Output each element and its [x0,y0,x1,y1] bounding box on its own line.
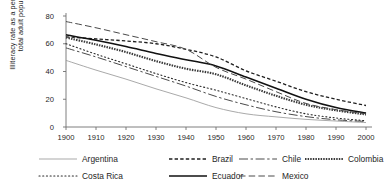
legend-item-label: Argentina [82,154,118,164]
legend-line-swatch-icon [238,171,278,181]
legend-item-label: Costa Rica [82,171,123,181]
x-axis-tick-label: 1900 [49,133,83,142]
legend-line-swatch-icon [38,154,78,164]
x-axis-tick-label: 1990 [319,133,353,142]
illiteracy-line-chart: Illiteracy rate as a percentage of total… [0,0,392,192]
series-line-argentina [66,60,366,122]
x-axis-tick-label: 1950 [199,133,233,142]
plot-canvas [59,12,372,131]
x-axis-tick-label: 1930 [139,133,173,142]
y-axis-title: Illiteracy rate as a percentage of total… [9,0,27,79]
y-axis-title-line-2: total adult population [17,0,25,79]
x-axis-tick-label: 1970 [259,133,293,142]
y-axis-tick-labels: 020406080 [28,0,54,143]
x-axis-tick-label: 1960 [229,133,263,142]
series-line-brazil [66,37,366,106]
legend-item-label: Chile [282,154,301,164]
x-axis-tick-label: 1920 [109,133,143,142]
legend-line-swatch-icon [168,154,208,164]
legend-row-2: Costa RicaEcuadorMexico [0,169,392,186]
y-axis-tick-label: 60 [32,39,54,48]
series-line-chile [66,48,366,122]
legend-item-chile[interactable]: Chile [238,154,301,164]
legend-row-1: ArgentinaBrazilChileColombia [0,152,392,169]
x-axis-tick-label: 1980 [289,133,323,142]
y-axis-tick-label: 40 [32,67,54,76]
y-axis-tick-label: 80 [32,12,54,21]
legend-item-label: Mexico [282,171,309,181]
legend-item-ecuador[interactable]: Ecuador [168,171,243,181]
x-axis-tick-label: 1940 [169,133,203,142]
x-axis-tick-label: 1910 [79,133,113,142]
legend-item-label: Colombia [348,154,383,164]
chart-legend: ArgentinaBrazilChileColombia Costa RicaE… [0,152,392,192]
legend-line-swatch-icon [168,171,208,181]
legend-item-costa-rica[interactable]: Costa Rica [38,171,123,181]
legend-line-swatch-icon [38,171,78,181]
legend-item-colombia[interactable]: Colombia [304,154,383,164]
legend-item-mexico[interactable]: Mexico [238,171,309,181]
y-axis-tick-label: 0 [32,123,54,132]
legend-item-argentina[interactable]: Argentina [38,154,118,164]
legend-line-swatch-icon [238,154,278,164]
legend-item-brazil[interactable]: Brazil [168,154,233,164]
legend-item-label: Brazil [212,154,233,164]
series-line-mexico [66,22,366,114]
plot-area [59,12,372,131]
y-axis-tick-label: 20 [32,95,54,104]
series-line-costa-rica [66,44,366,121]
x-axis-tick-labels: 1900191019201930194019501960197019801990… [0,133,392,149]
legend-line-swatch-icon [304,154,344,164]
x-axis-tick-label: 2000 [349,133,383,142]
